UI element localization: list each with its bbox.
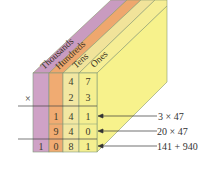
annotation-3x47: 3 × 47: [158, 111, 184, 122]
times-sign: ×: [25, 93, 31, 104]
annotation-141plus940: 141 + 940: [157, 141, 198, 152]
digit: 0: [54, 141, 59, 152]
digit: 4: [69, 126, 74, 137]
place-value-diagram: Thousands Hundreds Tens Ones × 4 7 2 3 1…: [0, 0, 210, 173]
digit: 3: [86, 92, 91, 103]
digit: 1: [39, 141, 44, 152]
digit: 0: [86, 126, 91, 137]
digit: 7: [86, 76, 91, 87]
annotation-20x47: 20 × 47: [157, 126, 188, 137]
digit: 2: [69, 92, 74, 103]
digit: 4: [69, 76, 74, 87]
digit: 1: [54, 111, 59, 122]
digit: 4: [69, 111, 74, 122]
digit: 8: [69, 141, 74, 152]
digit: 1: [86, 141, 91, 152]
digit: 9: [54, 126, 59, 137]
digit: 1: [86, 111, 91, 122]
